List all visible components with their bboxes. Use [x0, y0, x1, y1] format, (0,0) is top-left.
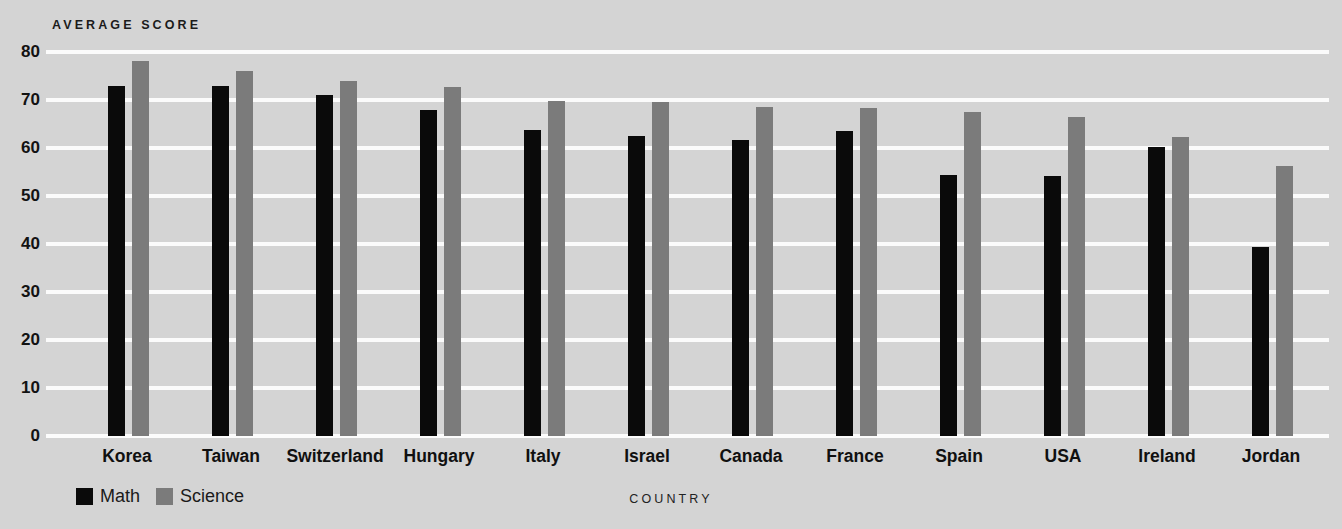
bar-science-france[interactable] — [860, 108, 877, 436]
bar-math-usa[interactable] — [1044, 176, 1061, 436]
y-tick-label-70: 70 — [0, 90, 40, 110]
bar-groups — [46, 52, 1329, 436]
x-axis-category-labels: KoreaTaiwanSwitzerlandHungaryItalyIsrael… — [46, 446, 1329, 472]
y-tick-label-40: 40 — [0, 234, 40, 254]
bar-science-israel[interactable] — [652, 102, 669, 436]
bar-group — [75, 52, 179, 436]
bar-group — [699, 52, 803, 436]
y-tick-label-10: 10 — [0, 378, 40, 398]
bar-math-italy[interactable] — [524, 130, 541, 436]
bar-science-jordan[interactable] — [1276, 166, 1293, 436]
y-tick-label-80: 80 — [0, 42, 40, 62]
bar-science-usa[interactable] — [1068, 117, 1085, 436]
bar-math-jordan[interactable] — [1252, 247, 1269, 436]
bar-math-canada[interactable] — [732, 140, 749, 436]
bar-science-taiwan[interactable] — [236, 71, 253, 436]
bar-math-ireland[interactable] — [1148, 147, 1165, 436]
y-tick-label-60: 60 — [0, 138, 40, 158]
bar-math-taiwan[interactable] — [212, 86, 229, 436]
bar-science-korea[interactable] — [132, 61, 149, 436]
bar-math-spain[interactable] — [940, 175, 957, 436]
bar-math-korea[interactable] — [108, 86, 125, 436]
bar-math-switzerland[interactable] — [316, 95, 333, 436]
plot-area: 01020304050607080 — [46, 52, 1329, 440]
y-tick-label-50: 50 — [0, 186, 40, 206]
bar-science-italy[interactable] — [548, 101, 565, 436]
bar-group — [387, 52, 491, 436]
bar-math-israel[interactable] — [628, 136, 645, 436]
bar-group — [283, 52, 387, 436]
y-tick-label-20: 20 — [0, 330, 40, 350]
x-axis-title: COUNTRY — [0, 492, 1342, 506]
bar-group — [179, 52, 283, 436]
y-tick-label-30: 30 — [0, 282, 40, 302]
bar-science-spain[interactable] — [964, 112, 981, 436]
category-label-jordan: Jordan — [1201, 446, 1341, 467]
bar-group — [595, 52, 699, 436]
bar-science-ireland[interactable] — [1172, 137, 1189, 436]
bar-science-switzerland[interactable] — [340, 81, 357, 436]
bar-group — [907, 52, 1011, 436]
bar-group — [491, 52, 595, 436]
bar-group — [803, 52, 907, 436]
y-axis-title: AVERAGE SCORE — [52, 18, 201, 32]
bar-group — [1011, 52, 1115, 436]
bar-group — [1219, 52, 1323, 436]
y-tick-label-0: 0 — [0, 426, 40, 446]
bar-math-hungary[interactable] — [420, 110, 437, 436]
bar-math-france[interactable] — [836, 131, 853, 436]
bar-group — [1115, 52, 1219, 436]
bar-chart: AVERAGE SCORE 01020304050607080 KoreaTai… — [0, 0, 1342, 529]
bar-science-hungary[interactable] — [444, 87, 461, 436]
bar-science-canada[interactable] — [756, 107, 773, 436]
